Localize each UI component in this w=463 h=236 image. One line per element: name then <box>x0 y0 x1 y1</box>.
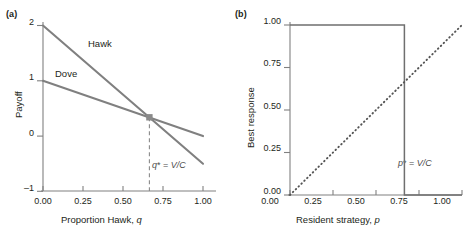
dove-payoff-line <box>43 81 203 136</box>
hawk-payoff-line <box>43 26 203 164</box>
figure-container: (a) Payoff 2 1 0 –1 0.00 0.25 0.50 0.75 … <box>0 0 463 236</box>
panel-b-y-ticks <box>284 25 290 195</box>
panel-a: (a) Payoff 2 1 0 –1 0.00 0.25 0.50 0.75 … <box>0 0 232 236</box>
identity-diagonal-line <box>290 25 462 195</box>
panel-a-y-ticks <box>37 26 43 192</box>
panel-b-plot <box>231 0 463 236</box>
panel-a-plot <box>0 0 232 236</box>
panel-b-axis-lines <box>288 22 462 195</box>
panel-a-x-ticks <box>43 186 203 191</box>
equilibrium-marker <box>146 114 152 120</box>
panel-b: (b) Best response 1.00 0.75 0.50 0.25 0.… <box>231 0 463 236</box>
